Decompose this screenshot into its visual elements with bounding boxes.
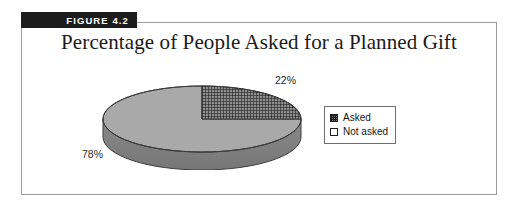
pie-slice-asked bbox=[202, 86, 301, 119]
chart-plot-area: 22% 78% Asked Not asked bbox=[22, 62, 496, 194]
pie-label-not-asked-percent: 78% bbox=[82, 148, 103, 160]
pie-label-asked-percent: 22% bbox=[275, 74, 296, 86]
figure-number-banner: FIGURE 4.2 bbox=[21, 12, 137, 28]
pie-chart-svg bbox=[100, 80, 305, 170]
legend-item-not-asked: Not asked bbox=[330, 125, 388, 139]
figure-root: FIGURE 4.2 Percentage of People Asked fo… bbox=[0, 0, 516, 207]
legend-label-not-asked: Not asked bbox=[343, 126, 388, 138]
legend-swatch-asked-icon bbox=[330, 114, 338, 122]
legend-label-asked: Asked bbox=[343, 112, 371, 124]
legend-item-asked: Asked bbox=[330, 111, 388, 125]
figure-number-label: FIGURE 4.2 bbox=[66, 15, 129, 26]
legend-swatch-not-asked-icon bbox=[330, 128, 338, 136]
pie-chart-3d bbox=[100, 80, 305, 170]
figure-title: Percentage of People Asked for a Planned… bbox=[22, 30, 496, 55]
chart-legend: Asked Not asked bbox=[324, 106, 396, 144]
